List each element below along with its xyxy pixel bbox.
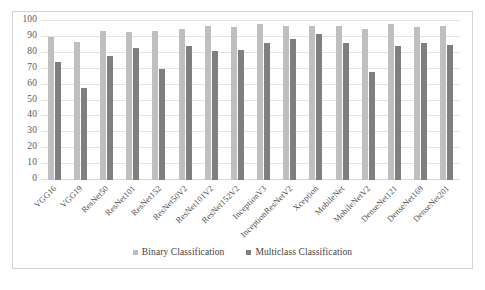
bar[interactable] — [336, 26, 342, 180]
legend-swatch-icon — [133, 250, 138, 255]
legend-entry[interactable]: Binary Classification — [133, 248, 225, 258]
x-axis-label-slot: Xception — [303, 182, 329, 254]
bar-group — [41, 21, 67, 180]
bar[interactable] — [186, 46, 192, 180]
bar-group — [434, 21, 460, 180]
bar[interactable] — [126, 32, 132, 180]
y-axis-tick-label: 50 — [27, 95, 37, 105]
bar-group — [381, 21, 407, 180]
chart-legend: Binary ClassificationMulticlass Classifi… — [13, 248, 472, 258]
bar[interactable] — [231, 27, 237, 180]
bar[interactable] — [107, 56, 113, 180]
y-axis-tick-label: 80 — [27, 47, 37, 57]
bar-group — [303, 21, 329, 180]
bar[interactable] — [447, 45, 453, 180]
bar[interactable] — [81, 88, 87, 180]
bar-group — [224, 21, 250, 180]
bar[interactable] — [283, 26, 289, 180]
y-axis-tick-label: 0 — [32, 174, 37, 184]
bar-group — [355, 21, 381, 180]
bar-group — [198, 21, 224, 180]
legend-label: Binary Classification — [142, 248, 225, 258]
x-axis-category-labels: VGG16VGG19ResNet50ResNet101ResNet152ResN… — [41, 182, 460, 254]
x-axis-label-slot: ResNet101 — [120, 182, 146, 254]
bar[interactable] — [362, 29, 368, 180]
bar[interactable] — [55, 62, 61, 180]
bar-group — [146, 21, 172, 180]
legend-label: Multiclass Classification — [255, 248, 352, 258]
bar[interactable] — [316, 34, 322, 180]
bar[interactable] — [133, 48, 139, 180]
bar[interactable] — [440, 26, 446, 180]
bar[interactable] — [421, 43, 427, 180]
bar[interactable] — [48, 37, 54, 180]
chart-frame: 1009080706050403020100 VGG16VGG19ResNet5… — [12, 11, 473, 269]
bar[interactable] — [100, 31, 106, 180]
y-axis-tick-label: 60 — [27, 79, 37, 89]
bar-group — [120, 21, 146, 180]
x-axis-tick-label: VGG16 — [33, 184, 58, 209]
bar-group — [277, 21, 303, 180]
bar-group — [251, 21, 277, 180]
plot-area: 1009080706050403020100 — [41, 21, 460, 180]
bar-group — [67, 21, 93, 180]
bar-series-container — [41, 21, 460, 180]
bar[interactable] — [238, 50, 244, 180]
bar[interactable] — [179, 29, 185, 180]
y-axis-tick-label: 100 — [22, 15, 37, 25]
y-axis-tick-label: 30 — [27, 127, 37, 137]
bar-group — [329, 21, 355, 180]
bar[interactable] — [74, 42, 80, 180]
bar[interactable] — [343, 43, 349, 180]
bar[interactable] — [309, 26, 315, 180]
bar-group — [172, 21, 198, 180]
bar[interactable] — [414, 27, 420, 180]
legend-entry[interactable]: Multiclass Classification — [246, 248, 352, 258]
x-axis-label-slot: VGG16 — [41, 182, 67, 254]
y-axis-tick-label: 20 — [27, 142, 37, 152]
y-axis-tick-label: 90 — [27, 31, 37, 41]
bar-group — [408, 21, 434, 180]
bar[interactable] — [257, 24, 263, 180]
y-axis-tick-label: 10 — [27, 158, 37, 168]
bar[interactable] — [290, 39, 296, 181]
y-axis-tick-label: 70 — [27, 63, 37, 73]
bar[interactable] — [264, 43, 270, 180]
y-axis-tick-label: 40 — [27, 111, 37, 121]
bar-group — [93, 21, 119, 180]
legend-swatch-icon — [246, 250, 251, 255]
bar[interactable] — [152, 31, 158, 180]
bar[interactable] — [212, 51, 218, 180]
bar[interactable] — [395, 46, 401, 180]
bar[interactable] — [369, 72, 375, 180]
x-axis-label-slot: InceptionResNetV2 — [277, 182, 303, 254]
x-axis-label-slot: DenseNet201 — [434, 182, 460, 254]
bar[interactable] — [159, 69, 165, 180]
x-axis-label-slot: ResNet50 — [93, 182, 119, 254]
bar[interactable] — [388, 24, 394, 180]
x-axis-label-slot: VGG19 — [67, 182, 93, 254]
bar[interactable] — [205, 26, 211, 180]
